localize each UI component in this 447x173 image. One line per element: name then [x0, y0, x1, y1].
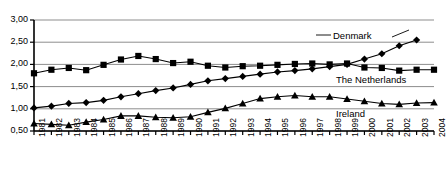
data-point-square: [100, 62, 106, 68]
y-tick-label: 3,00: [0, 15, 28, 24]
data-point-square: [170, 60, 176, 66]
data-point-diamond: [30, 104, 37, 111]
y-tick-label: 1,00: [0, 104, 28, 113]
data-point-square: [153, 56, 159, 62]
data-point-square: [135, 53, 141, 59]
x-tick-label: 1993: [247, 118, 256, 137]
data-point-square: [66, 65, 72, 71]
x-tick-label: 1985: [108, 118, 117, 137]
x-tick-label: 1991: [212, 118, 221, 137]
data-point-triangle: [291, 92, 299, 99]
data-point-diamond: [65, 100, 72, 107]
data-point-square: [205, 63, 211, 69]
data-point-diamond: [256, 71, 263, 78]
data-point-diamond: [274, 68, 281, 75]
x-tick-label: 1986: [125, 118, 134, 137]
y-tick-label: 2,00: [0, 59, 28, 68]
x-tick-label: 1987: [142, 118, 151, 137]
x-tick-label: 1992: [229, 118, 238, 137]
data-point-diamond: [117, 93, 124, 100]
series-label-denmark: Denmark: [333, 30, 372, 41]
x-tick-label: 1990: [195, 118, 204, 137]
x-tick-label: 1995: [281, 118, 290, 137]
data-point-diamond: [83, 99, 90, 106]
x-tick-label: 1984: [90, 118, 99, 137]
data-point-diamond: [239, 73, 246, 80]
x-tick-label: 1982: [55, 118, 64, 137]
x-tick-label: 2000: [368, 118, 377, 137]
data-point-diamond: [100, 97, 107, 104]
data-point-square: [344, 60, 350, 66]
y-tick-label: 1,50: [0, 82, 28, 91]
x-tick-label: 2002: [403, 118, 412, 137]
data-point-square: [396, 68, 402, 74]
x-tick-label: 1988: [160, 118, 169, 137]
data-point-square: [431, 67, 437, 73]
x-tick-label: 1996: [299, 118, 308, 137]
data-point-diamond: [378, 50, 385, 57]
data-point-square: [257, 63, 263, 69]
series-label-the-netherlands: The Netherlands: [336, 74, 406, 85]
x-tick-label: 1983: [73, 118, 82, 137]
data-point-diamond: [361, 55, 368, 62]
x-tick-label: 1999: [351, 118, 360, 137]
x-tick-label: 1998: [334, 118, 343, 137]
x-tick-label: 2003: [421, 118, 430, 137]
data-point-diamond: [152, 87, 159, 94]
data-point-square: [83, 67, 89, 73]
data-point-square: [48, 67, 54, 73]
data-point-diamond: [396, 42, 403, 49]
y-tick-label: 0,50: [0, 126, 28, 135]
data-point-square: [414, 67, 420, 73]
data-point-diamond: [291, 67, 298, 74]
x-tick-label: 2001: [386, 118, 395, 137]
data-point-square: [309, 60, 315, 66]
data-point-square: [240, 63, 246, 69]
data-point-square: [292, 61, 298, 67]
x-tick-label: 1981: [38, 118, 47, 137]
data-point-diamond: [204, 77, 211, 84]
x-tick-label: 2004: [438, 118, 447, 137]
data-point-square: [222, 64, 228, 70]
data-point-square: [361, 64, 367, 70]
data-point-diamond: [222, 75, 229, 82]
data-point-square: [327, 61, 333, 67]
data-point-square: [379, 65, 385, 71]
data-point-diamond: [170, 84, 177, 91]
x-tick-label: 1997: [316, 118, 325, 137]
data-point-square: [31, 70, 37, 76]
leader-line: [392, 30, 409, 37]
y-tick-label: 2,50: [0, 37, 28, 46]
data-point-square: [274, 62, 280, 68]
data-point-square: [118, 56, 124, 62]
data-point-diamond: [135, 90, 142, 97]
x-tick-label: 1994: [264, 118, 273, 137]
series-label-ireland: Ireland: [336, 108, 365, 119]
data-point-square: [187, 59, 193, 65]
x-tick-label: 1989: [177, 118, 186, 137]
